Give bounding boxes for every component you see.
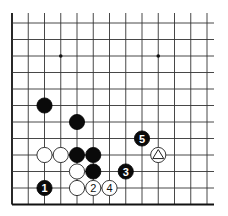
white-stone <box>69 164 84 179</box>
black-stone-disc <box>37 98 52 113</box>
stones: 12345 <box>37 98 166 196</box>
black-stone <box>69 114 84 129</box>
black-stone <box>86 164 101 179</box>
black-stone-1: 1 <box>37 180 52 195</box>
white-stone-2: 2 <box>86 180 101 195</box>
black-stone-disc <box>69 114 84 129</box>
black-stone-disc <box>86 164 101 179</box>
white-stone-disc <box>69 164 84 179</box>
white-stone <box>151 147 166 162</box>
move-number-label: 4 <box>106 182 112 194</box>
black-stone-disc <box>69 147 84 162</box>
black-stone <box>86 147 101 162</box>
white-stone <box>53 147 68 162</box>
black-stone <box>37 98 52 113</box>
white-stone <box>37 147 52 162</box>
white-stone-disc <box>37 147 52 162</box>
star-point <box>156 54 160 58</box>
move-number-label: 2 <box>90 182 96 194</box>
move-number-label: 3 <box>123 166 129 178</box>
white-stone-4: 4 <box>102 180 117 195</box>
white-stone-disc <box>69 180 84 195</box>
black-stone-5: 5 <box>134 131 149 146</box>
move-number-label: 1 <box>41 182 47 194</box>
move-number-label: 5 <box>139 133 145 145</box>
star-point <box>59 54 63 58</box>
white-stone-disc <box>53 147 68 162</box>
go-board: 12345 <box>0 0 228 216</box>
black-stone-3: 3 <box>118 164 133 179</box>
black-stone <box>69 147 84 162</box>
black-stone-disc <box>86 147 101 162</box>
white-stone <box>69 180 84 195</box>
